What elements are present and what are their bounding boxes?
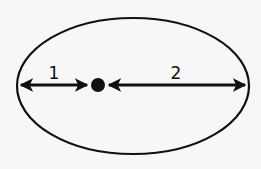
segment-1-label: 1 [49, 63, 60, 83]
segment-2-label: 2 [171, 63, 182, 83]
ellipse-diagram: 1 2 [0, 0, 261, 169]
focus-dot [91, 78, 105, 92]
diagram-canvas: 1 2 [0, 0, 261, 169]
